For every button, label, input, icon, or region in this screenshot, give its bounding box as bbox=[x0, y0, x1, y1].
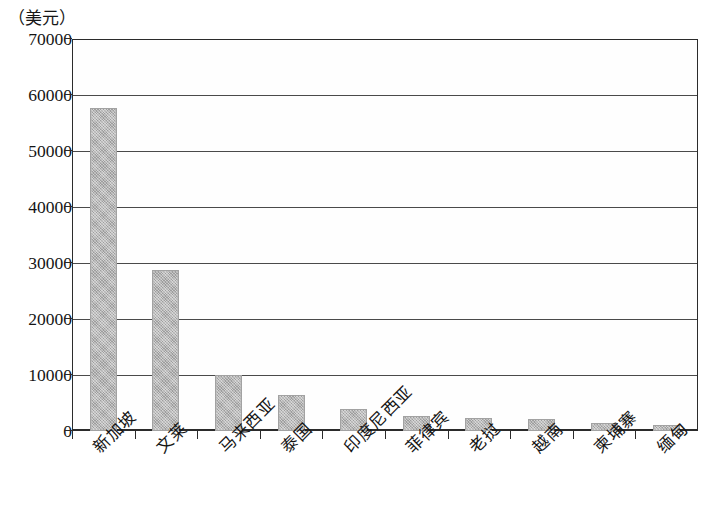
x-axis-tick-mark bbox=[197, 431, 198, 439]
x-axis-tick-mark bbox=[510, 431, 511, 439]
y-axis-tick-label: 50000 bbox=[28, 141, 72, 162]
y-axis-tick-mark bbox=[65, 430, 72, 431]
gridline bbox=[73, 95, 697, 96]
y-axis-tick-mark bbox=[65, 206, 72, 207]
gridline bbox=[73, 319, 697, 320]
y-axis-tick-label: 40000 bbox=[28, 197, 72, 218]
x-axis-tick-mark bbox=[385, 431, 386, 439]
y-axis-tick-label: 20000 bbox=[28, 309, 72, 330]
y-axis-tick-label: 10000 bbox=[28, 365, 72, 386]
gridline bbox=[73, 207, 697, 208]
y-axis-tick-mark bbox=[65, 150, 72, 151]
y-axis-tick-label: 0 bbox=[63, 421, 72, 442]
y-axis-tick-mark bbox=[65, 318, 72, 319]
gridline bbox=[73, 263, 697, 264]
gridline bbox=[73, 375, 697, 376]
x-axis-tick-mark bbox=[260, 431, 261, 439]
y-axis-tick-mark bbox=[65, 38, 72, 39]
x-axis-tick-mark bbox=[635, 431, 636, 439]
plot-area bbox=[72, 39, 698, 431]
bar-chart: （美元） 70000600005000040000300002000010000… bbox=[0, 0, 705, 526]
gridline bbox=[73, 151, 697, 152]
y-axis-tick-label: 30000 bbox=[28, 253, 72, 274]
y-axis-tick-mark bbox=[65, 262, 72, 263]
x-axis-tick-mark bbox=[448, 431, 449, 439]
y-axis-tick-mark bbox=[65, 94, 72, 95]
y-axis-tick-label: 60000 bbox=[28, 85, 72, 106]
x-axis-tick-mark bbox=[135, 431, 136, 439]
x-axis-tick-mark bbox=[573, 431, 574, 439]
y-axis-tick-mark bbox=[65, 374, 72, 375]
y-axis-tick-label: 70000 bbox=[28, 29, 72, 50]
x-axis-tick-mark bbox=[322, 431, 323, 439]
x-axis-tick-mark bbox=[72, 431, 73, 439]
y-axis-unit-label: （美元） bbox=[8, 4, 76, 29]
